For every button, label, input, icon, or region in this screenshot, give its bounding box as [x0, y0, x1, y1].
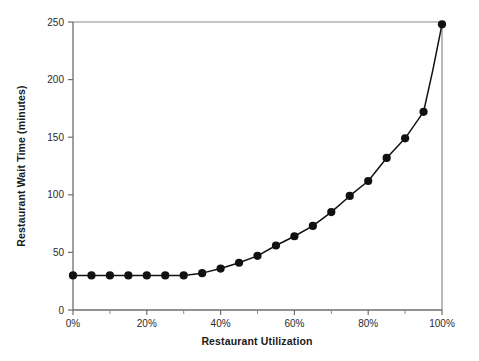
- chart-figure: 050100150200250 0%20%40%60%80%100% Resta…: [0, 0, 479, 361]
- y-tick-label: 250: [47, 17, 64, 28]
- x-tick-label: 40%: [211, 318, 231, 329]
- data-point: [290, 232, 298, 240]
- data-point: [198, 269, 206, 277]
- data-point: [87, 271, 95, 279]
- data-point: [309, 222, 317, 230]
- y-tick-label: 100: [47, 189, 64, 200]
- y-axis-title: Restaurant Wait Time (minutes): [15, 85, 27, 246]
- data-point: [327, 208, 335, 216]
- data-point: [69, 271, 77, 279]
- data-point: [364, 177, 372, 185]
- data-point: [106, 271, 114, 279]
- x-tick-label: 100%: [429, 318, 455, 329]
- data-point: [161, 271, 169, 279]
- x-axis-title: Restaurant Utilization: [201, 335, 312, 347]
- x-tick-label: 20%: [137, 318, 157, 329]
- y-tick-label: 150: [47, 132, 64, 143]
- y-tick-label: 200: [47, 74, 64, 85]
- data-point: [419, 108, 427, 116]
- y-tick-label: 50: [53, 247, 65, 258]
- data-point: [235, 259, 243, 267]
- x-tick-label: 60%: [284, 318, 304, 329]
- chart-background: [0, 0, 479, 361]
- line-chart-canvas: 050100150200250 0%20%40%60%80%100% Resta…: [0, 0, 479, 361]
- y-tick-label: 0: [58, 305, 64, 316]
- data-point: [346, 192, 354, 200]
- data-point: [217, 264, 225, 272]
- data-point: [124, 271, 132, 279]
- data-point: [253, 252, 261, 260]
- data-point: [383, 154, 391, 162]
- data-point: [401, 134, 409, 142]
- data-point: [272, 241, 280, 249]
- data-point: [143, 271, 151, 279]
- data-point: [180, 271, 188, 279]
- x-tick-label: 0%: [66, 318, 81, 329]
- data-point: [438, 20, 446, 28]
- x-tick-label: 80%: [358, 318, 378, 329]
